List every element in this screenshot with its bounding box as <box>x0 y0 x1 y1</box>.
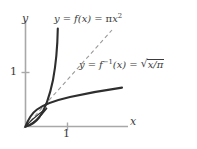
inverse-equals-2: = <box>129 59 137 70</box>
radicand: x/π <box>147 59 165 70</box>
inverse-exponent: −1 <box>103 58 113 66</box>
x-axis-tick-label-1: 1 <box>63 128 70 139</box>
inverse-equals-1: = <box>88 59 96 70</box>
inverse-equation-label: y=f−1(x)=√x/π <box>79 59 164 70</box>
parabola-lhs: y <box>54 13 60 24</box>
y-axis-tick-label-1: 1 <box>10 66 17 77</box>
parabola-equation-label: y=f(x)=πx2 <box>54 13 122 24</box>
parabola-exponent: 2 <box>118 12 122 20</box>
identity-line-y-equals-x <box>26 30 113 127</box>
inverse-lhs: y <box>79 59 85 70</box>
x-axis-label: x <box>130 116 136 127</box>
y-axis-label: y <box>22 13 28 24</box>
radical-icon: √ <box>141 58 148 69</box>
square-root-expression: √x/π <box>141 59 165 70</box>
inverse-sqrt-curve <box>26 88 123 127</box>
parabola-equals-2: = <box>94 13 102 24</box>
parabola-argument: (x) <box>78 13 91 24</box>
parabola-equals-1: = <box>63 13 71 24</box>
inverse-argument: (x) <box>113 59 126 70</box>
